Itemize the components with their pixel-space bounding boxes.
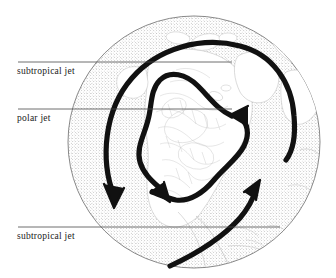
label-subtropical-jet-bottom: subtropical jet: [17, 231, 75, 241]
label-subtropical-jet-top: subtropical jet: [17, 66, 75, 76]
jet-stream-figure: subtropical jet polar jet subtropical je…: [0, 0, 336, 278]
label-polar-jet: polar jet: [17, 113, 51, 123]
